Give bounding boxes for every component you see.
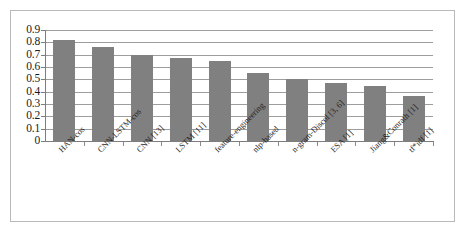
x-axis-tick [84,142,85,146]
y-axis-tick [41,30,46,31]
x-axis-tick [123,142,124,146]
x-axis-tick [394,142,395,146]
y-axis-tick-label: 0.5 [12,73,40,85]
y-axis-tick [41,79,46,80]
bar[interactable] [92,47,114,141]
x-axis-tick [239,142,240,146]
x-axis-tick [433,142,434,146]
y-axis-tick-label: 0.4 [12,86,40,98]
y-axis-tick [41,92,46,93]
y-axis-tick-label: 0.9 [12,24,40,36]
y-axis-tick [41,116,46,117]
x-axis-tick [317,142,318,146]
y-axis-tick [41,55,46,56]
y-axis-tick-label: 0.3 [12,98,40,110]
y-axis-tick [41,141,46,142]
y-axis-labels: 0.90.80.70.60.50.40.30.20.10 [11,11,40,223]
y-axis-tick-label: 0.2 [12,110,40,122]
y-axis-tick-label: 0.8 [12,36,40,48]
bar[interactable] [209,61,231,141]
bar[interactable] [170,58,192,141]
y-axis-tick [41,42,46,43]
y-axis-tick-label: 0.7 [12,49,40,61]
y-axis-tick [41,104,46,105]
x-axis-tick [355,142,356,146]
y-axis-tick [41,129,46,130]
bar[interactable] [131,55,153,141]
y-axis-tick-label: 0.1 [12,123,40,135]
y-axis-tick [41,67,46,68]
x-axis-tick [161,142,162,146]
x-axis-tick [278,142,279,146]
y-axis-tick-label: 0.6 [12,61,40,73]
y-axis-tick-label: 0 [12,135,40,147]
chart-frame: 0.90.80.70.60.50.40.30.20.10 HAN-cosCNN-… [10,10,455,222]
bar[interactable] [53,40,75,141]
x-axis-tick [200,142,201,146]
